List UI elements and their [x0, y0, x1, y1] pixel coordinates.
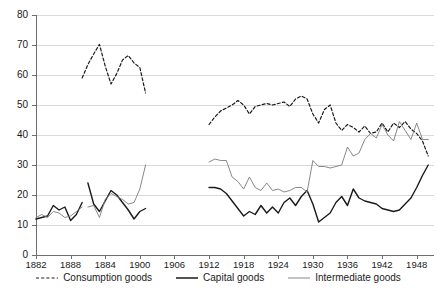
chart-container: 01020304050607080 1882188818841900190619…	[0, 0, 437, 298]
legend-item: Intermediate goods	[288, 272, 401, 283]
series-segment	[209, 122, 428, 193]
series-segment	[88, 165, 146, 218]
series-segment	[88, 183, 146, 219]
plot-region: 01020304050607080 1882188818841900190619…	[0, 0, 437, 268]
series-capital-goods	[36, 165, 428, 222]
series-consumption-goods	[82, 44, 428, 156]
legend-label: Intermediate goods	[315, 272, 401, 283]
legend-label: Capital goods	[203, 272, 264, 283]
series-lines-group	[0, 0, 437, 268]
legend-label: Consumption goods	[63, 272, 152, 283]
series-segment	[209, 96, 428, 156]
chart-legend: Consumption goodsCapital goodsIntermedia…	[0, 272, 437, 296]
legend-item: Capital goods	[176, 272, 264, 283]
legend-line-icon	[288, 273, 310, 283]
series-intermediate-goods	[36, 122, 428, 218]
series-segment	[82, 44, 145, 93]
series-segment	[209, 165, 428, 222]
legend-item: Consumption goods	[36, 272, 152, 283]
legend-line-icon	[36, 273, 58, 283]
legend-line-icon	[176, 273, 198, 283]
series-segment	[36, 203, 82, 221]
